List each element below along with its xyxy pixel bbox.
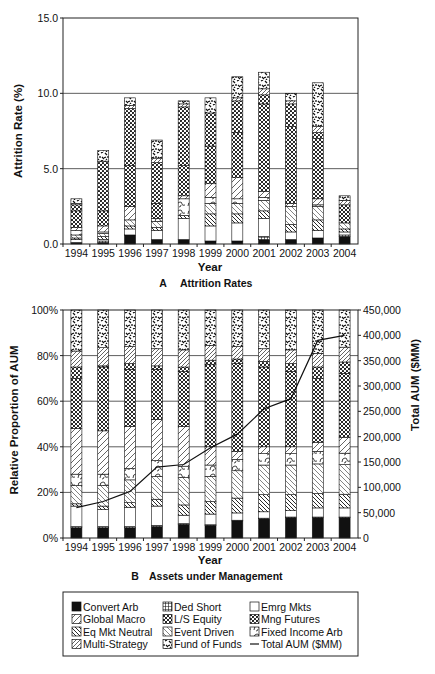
bar-segment (151, 310, 162, 349)
bar-segment (71, 230, 82, 235)
bar-segment (71, 367, 82, 378)
bar-segment (98, 510, 109, 527)
bar-segment (232, 364, 243, 452)
y-axis-ticks: 0.05.010.015.0 (38, 12, 63, 250)
bar-segment (205, 345, 216, 360)
bar-segment (71, 429, 82, 475)
bar-segment (98, 151, 109, 162)
bar-segment (339, 517, 350, 538)
bar-segment (312, 378, 323, 442)
bar-segment (232, 346, 243, 359)
bar-segment (339, 232, 350, 235)
bar-segment (125, 346, 136, 363)
bar-segment (232, 310, 243, 346)
x-tick-label: 1999 (199, 541, 223, 553)
bar-segment (205, 360, 216, 365)
x-tick-label: 2000 (226, 541, 250, 553)
legend-item: L/S Equity (163, 613, 223, 625)
bar-segment (98, 528, 109, 538)
x-tick-label: 1997 (145, 247, 169, 259)
legend: Convert ArbDed ShortEmrg MktsGlobal Macr… (63, 592, 358, 656)
y-tick-label: 80% (37, 350, 58, 362)
bar-segment (339, 508, 350, 517)
bar-segment (205, 525, 216, 538)
bar-segment (339, 205, 350, 223)
bar-segment (285, 447, 296, 454)
bar-segment (259, 239, 270, 244)
bar-segment (232, 223, 243, 241)
panel-letter: B (131, 570, 139, 582)
bar-segment (98, 310, 109, 348)
bar-segment (232, 77, 243, 98)
bar-segment (205, 197, 216, 203)
y-tick-label: 20% (37, 486, 58, 498)
bar-segment (259, 200, 270, 211)
bar-segment (125, 235, 136, 244)
bar-segment (151, 239, 162, 244)
bar-segment (285, 126, 296, 203)
bar-segment (151, 369, 162, 419)
bar-segment (71, 310, 82, 351)
legend-label: Fixed Income Arb (261, 626, 343, 638)
bar-segment (125, 507, 136, 526)
bar-segment (178, 367, 189, 372)
bar-segment (178, 478, 189, 505)
bar-segment (205, 214, 216, 226)
bar-segment (71, 486, 82, 504)
y-axis-label: Attrition Rate (%) (12, 84, 24, 178)
bar-segment (312, 126, 323, 132)
y-tick-label-right: 100,000 (363, 481, 401, 493)
bar-segment (232, 498, 243, 513)
bar-segment (151, 230, 162, 239)
y-axis-label-left: Relative Proportion of AUM (8, 345, 20, 494)
bar-segment (285, 206, 296, 224)
bar-segment (71, 205, 82, 211)
bar-segment (151, 460, 162, 476)
pattern-swatch-icon (163, 627, 172, 636)
pattern-swatch-icon (250, 627, 259, 636)
bar-segment (205, 98, 216, 113)
bar-segment (339, 223, 350, 229)
bar-segment (178, 466, 189, 477)
bar-segment (71, 474, 82, 485)
legend-item: Fund of Funds (163, 638, 242, 650)
x-tick-label: 2003 (306, 541, 330, 553)
bar-segment (205, 203, 216, 214)
legend-label: Fund of Funds (174, 638, 242, 650)
y-tick-label: 5.0 (43, 163, 58, 175)
bar-segment (178, 107, 189, 166)
x-tick-label: 1997 (145, 541, 169, 553)
y-tick-label: 0.0 (43, 238, 58, 250)
bar-segment (178, 515, 189, 523)
bar-segment (232, 199, 243, 204)
legend-label: Global Macro (83, 613, 146, 625)
bar-segment (178, 199, 189, 216)
bar-segment (125, 364, 136, 370)
x-tick-label: 1994 (65, 247, 89, 259)
bar-segment (178, 524, 189, 538)
bar-segment (98, 506, 109, 509)
legend-label: Convert Arb (83, 601, 139, 613)
bar-segment (285, 511, 296, 517)
bar-segment (178, 196, 189, 199)
bar-segment (259, 72, 270, 89)
bar-segment (285, 224, 296, 232)
bar-segment (339, 437, 350, 453)
pattern-swatch-icon (72, 602, 81, 611)
bar-segment (339, 362, 350, 373)
bar-segment (259, 218, 270, 236)
x-tick-label: 2004 (333, 247, 357, 259)
y-tick-label: 10.0 (38, 87, 59, 99)
legend-item: Ded Short (163, 601, 221, 613)
x-axis-label: Year (198, 261, 223, 273)
bar-segment (285, 232, 296, 240)
pattern-swatch-icon (163, 640, 172, 649)
bar-segment (339, 229, 350, 232)
bar-segment (312, 230, 323, 238)
bar-segment (259, 197, 270, 200)
bar-segment (151, 218, 162, 221)
bar-segment (151, 476, 162, 499)
x-tick-label: 1996 (118, 541, 142, 553)
bar-segment (232, 451, 243, 459)
x-tick-label: 1999 (199, 247, 223, 259)
